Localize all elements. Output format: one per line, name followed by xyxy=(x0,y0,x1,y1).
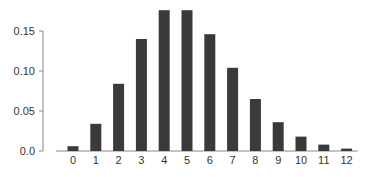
bar-1 xyxy=(90,124,101,151)
x-tick-label: 8 xyxy=(252,154,258,166)
bar-5 xyxy=(182,10,193,151)
y-tick-label: 0.10 xyxy=(14,65,35,77)
x-tick-label: 10 xyxy=(295,154,307,166)
y-axis: 0.00.050.100.15 xyxy=(14,25,43,157)
bar-6 xyxy=(204,34,215,151)
bar-9 xyxy=(273,122,284,151)
x-tick-label: 1 xyxy=(93,154,99,166)
y-tick-label: 0.15 xyxy=(14,25,35,37)
bars xyxy=(68,10,353,151)
x-tick-label: 5 xyxy=(184,154,190,166)
bar-chart: 0.00.050.100.15 0123456789101112 xyxy=(0,0,375,177)
y-tick-label: 0.0 xyxy=(20,145,35,157)
bar-8 xyxy=(250,99,261,151)
bar-12 xyxy=(341,149,352,151)
x-tick-label: 9 xyxy=(275,154,281,166)
x-tick-label: 2 xyxy=(116,154,122,166)
x-tick-label: 12 xyxy=(340,154,352,166)
bar-10 xyxy=(296,137,307,151)
bar-0 xyxy=(68,146,79,151)
x-axis: 0123456789101112 xyxy=(56,151,358,166)
y-tick-label: 0.05 xyxy=(14,105,35,117)
bar-3 xyxy=(136,39,147,151)
bar-4 xyxy=(159,10,170,151)
x-tick-label: 4 xyxy=(161,154,167,166)
bar-11 xyxy=(318,145,329,151)
x-tick-label: 3 xyxy=(138,154,144,166)
bar-7 xyxy=(227,68,238,151)
x-tick-label: 7 xyxy=(230,154,236,166)
bar-2 xyxy=(113,84,124,151)
x-tick-label: 6 xyxy=(207,154,213,166)
x-tick-label: 0 xyxy=(70,154,76,166)
x-tick-label: 11 xyxy=(318,154,329,166)
